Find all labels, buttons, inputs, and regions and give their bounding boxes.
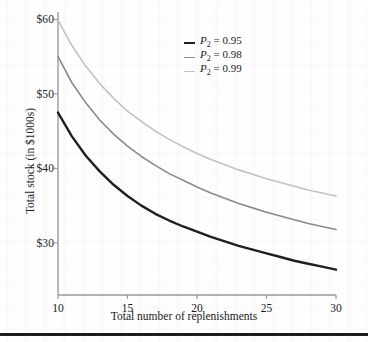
y-tick-label-group: $60 [14, 13, 54, 25]
legend-line-swatch [184, 42, 195, 44]
legend-item-label: P2 = 0.99 [200, 61, 242, 80]
chart-legend: P2 = 0.95P2 = 0.98P2 = 0.99 [184, 36, 242, 78]
y-tick-label: $60 [20, 13, 54, 25]
figure-page: $60 $50 $40 $30 10 15 20 25 30 Total num… [0, 0, 368, 342]
x-axis-title: Total number of replenishments [0, 310, 368, 322]
legend-item: P2 = 0.99 [184, 64, 242, 78]
y-axis-title: Total stock (in $1000s) [24, 71, 36, 251]
legend-line-swatch [184, 57, 195, 58]
legend-line-swatch [184, 71, 195, 72]
page-bottom-rule [0, 333, 368, 336]
